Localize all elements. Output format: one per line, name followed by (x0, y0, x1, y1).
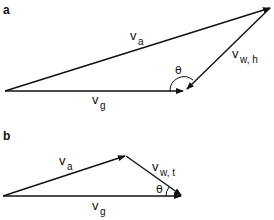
ground-velocity-label-b: v g (92, 198, 106, 217)
wind-velocity-label-a: v w, h (232, 46, 258, 65)
wind-velocity-label-b: v w, t (152, 159, 175, 178)
svg-text:v: v (92, 198, 99, 213)
panel-b: b θ v a v w, t v g (3, 129, 181, 217)
svg-text:v: v (130, 28, 137, 43)
vector-triangle-diagram: a θ v a v w, h v g b θ (0, 0, 274, 220)
air-velocity-vector-a (5, 8, 270, 91)
wind-velocity-vector-a (187, 8, 270, 89)
angle-arc-a (170, 77, 193, 91)
panel-label-a: a (3, 3, 10, 17)
angle-arc-b (166, 187, 169, 196)
svg-text:g: g (100, 100, 106, 111)
svg-text:a: a (138, 36, 144, 47)
svg-text:v: v (232, 46, 239, 61)
panel-a: a θ v a v w, h v g (3, 3, 270, 111)
svg-text:v: v (59, 153, 66, 168)
ground-velocity-label-a: v g (92, 92, 106, 111)
svg-text:g: g (100, 206, 106, 217)
svg-text:w, t: w, t (159, 167, 175, 178)
air-velocity-label-b: v a (59, 153, 73, 172)
theta-label-a: θ (175, 64, 182, 77)
svg-text:v: v (152, 159, 159, 174)
svg-text:v: v (92, 92, 99, 107)
svg-text:w, h: w, h (239, 54, 258, 65)
svg-text:a: a (67, 161, 73, 172)
air-velocity-label-a: v a (130, 28, 144, 47)
theta-label-b: θ (156, 183, 163, 196)
panel-label-b: b (3, 129, 10, 143)
